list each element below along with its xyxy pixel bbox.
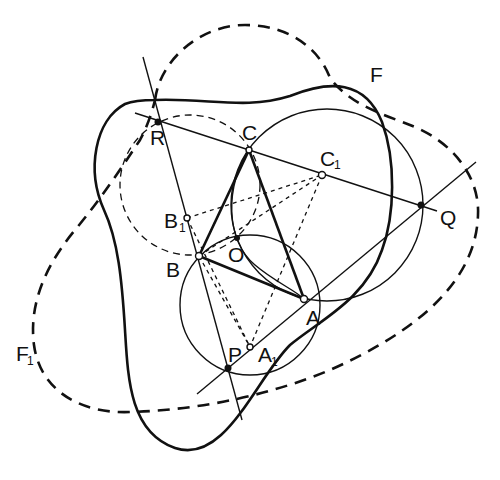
circle-C1 bbox=[231, 109, 423, 301]
label-P: P bbox=[228, 343, 242, 366]
label-R: R bbox=[150, 126, 165, 149]
label-A: A bbox=[306, 306, 320, 329]
label-B1: B bbox=[164, 209, 178, 232]
point-C bbox=[246, 147, 252, 153]
geometry-diagram: R C C 1 F Q B 1 B O A P A 1 F 1 bbox=[0, 0, 500, 480]
dash-B1-A1 bbox=[187, 218, 250, 347]
point-B bbox=[196, 253, 203, 260]
label-O: O bbox=[228, 243, 244, 266]
label-B: B bbox=[166, 258, 180, 281]
arc-C-O-A bbox=[232, 150, 304, 299]
label-C1-sub: 1 bbox=[334, 158, 341, 172]
label-Q: Q bbox=[440, 206, 456, 229]
point-Q bbox=[418, 202, 425, 209]
point-A bbox=[301, 296, 308, 303]
label-A1-sub: 1 bbox=[271, 355, 278, 369]
point-A1 bbox=[247, 344, 253, 350]
side-CA bbox=[249, 150, 304, 299]
point-R bbox=[155, 119, 162, 126]
label-C: C bbox=[242, 121, 257, 144]
label-F1-sub: 1 bbox=[27, 354, 34, 368]
point-O bbox=[234, 235, 240, 241]
label-C1: C bbox=[320, 147, 335, 170]
label-B1-sub: 1 bbox=[179, 221, 186, 235]
label-F: F bbox=[370, 63, 383, 86]
point-C1 bbox=[319, 172, 326, 179]
dash-B-A1 bbox=[199, 256, 250, 347]
label-A1: A bbox=[258, 343, 272, 366]
